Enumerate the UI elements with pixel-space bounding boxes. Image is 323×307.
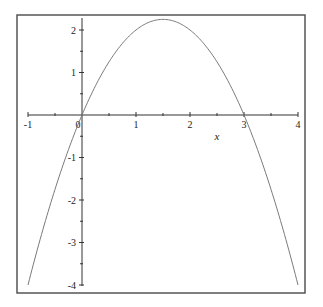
y-tick-label: 1 — [71, 67, 76, 78]
x-tick-label: 4 — [296, 119, 301, 130]
y-tick-label: -3 — [68, 237, 76, 248]
plot-area: -101234 -4-3-2-112 x — [0, 0, 323, 307]
y-tick-label: 2 — [71, 25, 76, 36]
x-axis-title: x — [214, 130, 220, 142]
x-tick-label: -1 — [24, 119, 32, 130]
minor-ticks — [55, 51, 271, 264]
x-tick-label: 1 — [134, 119, 139, 130]
y-tick-label: -1 — [68, 152, 76, 163]
x-tick-label: 2 — [188, 119, 193, 130]
plot-frame — [17, 15, 305, 293]
y-tick-label: -2 — [68, 195, 76, 206]
y-tick-label: -4 — [68, 280, 76, 291]
x-tick-label: 3 — [242, 119, 247, 130]
